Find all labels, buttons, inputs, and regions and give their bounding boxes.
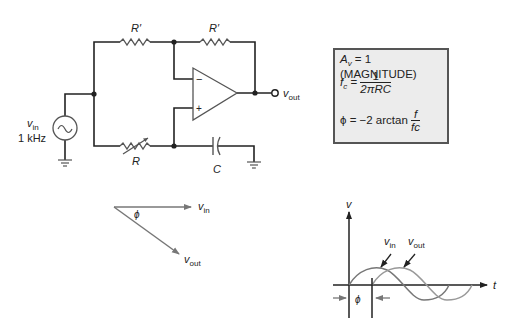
x-axis-label: t <box>493 279 497 291</box>
label-r-prime-feedback: R′ <box>209 22 220 34</box>
y-axis-label: v <box>346 198 353 210</box>
inverting-sign: − <box>196 73 202 85</box>
phasor-vout-label: vout <box>184 253 201 268</box>
cutoff-frequency-equation: fc = 12πRC <box>340 70 391 96</box>
resistor-input <box>120 39 150 45</box>
ground-icon-source <box>58 160 72 166</box>
vout-trace-label: vout <box>408 235 425 250</box>
label-r-prime-input: R′ <box>131 22 142 34</box>
vin-trace-label: vin <box>384 235 396 250</box>
variable-resistor <box>120 138 150 154</box>
phasor-vin-label: vin <box>198 200 210 215</box>
label-vout: vout <box>283 87 300 102</box>
waveform-plot: v t ϕ vin vout <box>333 198 497 318</box>
phase-label: ϕ <box>355 294 361 305</box>
resistor-feedback <box>200 39 230 45</box>
label-capacitor: C <box>213 163 221 175</box>
ground-icon-capacitor <box>247 162 261 168</box>
circuit-wires <box>65 42 272 162</box>
ac-source-icon <box>53 116 77 140</box>
vout-trace <box>372 268 472 300</box>
phasor-angle-label: ϕ <box>134 209 140 220</box>
label-r-variable: R <box>132 155 140 167</box>
equation-box: Av = 1 (MAGNITUDE) fc = 12πRC ϕ = −2 arc… <box>333 48 449 144</box>
vin-trace <box>349 268 449 300</box>
label-vin-source: vin <box>27 117 39 132</box>
phase-equation: ϕ = −2 arctan ffc <box>340 108 420 134</box>
phasor-diagram: ϕ vin vout <box>114 200 210 268</box>
noninverting-sign: + <box>196 103 202 114</box>
label-source-frequency: 1 kHz <box>18 132 46 144</box>
output-terminal <box>272 90 278 96</box>
